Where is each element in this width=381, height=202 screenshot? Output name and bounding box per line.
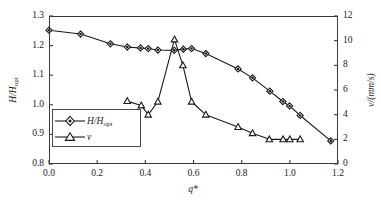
y-tick-right-0: 0 bbox=[343, 159, 367, 169]
y-tick-right-3: 6 bbox=[343, 85, 367, 95]
y-axis-right-title: v/(mm/s) bbox=[366, 73, 376, 106]
y-tick-left-4: 1.2 bbox=[20, 41, 44, 51]
legend-triangle-icon bbox=[53, 129, 87, 145]
y-axis-left-title: H/Hopt bbox=[8, 77, 18, 102]
x-tick-2: 0.4 bbox=[139, 169, 151, 179]
legend-label-h-hopt: H/Hopt bbox=[87, 116, 112, 126]
legend-diamond-icon bbox=[53, 113, 87, 129]
y-tick-left-3: 1.1 bbox=[20, 70, 44, 80]
y-tick-left-0: 0.8 bbox=[20, 159, 44, 169]
x-tick-6: 1.2 bbox=[332, 169, 344, 179]
y-tick-right-1: 2 bbox=[343, 135, 367, 145]
x-tick-0: 0.0 bbox=[43, 169, 55, 179]
y-tick-left-5: 1.3 bbox=[20, 11, 44, 21]
x-tick-3: 0.6 bbox=[188, 169, 200, 179]
legend-label-v: v bbox=[87, 132, 91, 142]
y-tick-right-5: 10 bbox=[343, 36, 367, 46]
y-tick-right-6: 12 bbox=[343, 11, 367, 21]
legend-item-h-hopt: H/Hopt bbox=[53, 112, 142, 129]
y-tick-right-2: 4 bbox=[343, 110, 367, 120]
x-tick-5: 1.0 bbox=[284, 169, 296, 179]
x-tick-4: 0.8 bbox=[236, 169, 248, 179]
chart-figure: 0.80.91.01.11.21.30246810120.00.20.40.60… bbox=[0, 0, 381, 202]
y-tick-left-1: 0.9 bbox=[20, 130, 44, 140]
y-tick-left-2: 1.0 bbox=[20, 100, 44, 110]
x-axis-title: q* bbox=[188, 184, 198, 194]
x-tick-1: 0.2 bbox=[91, 169, 103, 179]
chart-legend: H/Hopt v bbox=[52, 109, 141, 147]
y-axis-left-title-sub: opt bbox=[12, 77, 20, 86]
y-axis-left-title-main: H/H bbox=[8, 86, 18, 102]
legend-item-v: v bbox=[53, 128, 142, 145]
y-tick-right-4: 8 bbox=[343, 61, 367, 71]
